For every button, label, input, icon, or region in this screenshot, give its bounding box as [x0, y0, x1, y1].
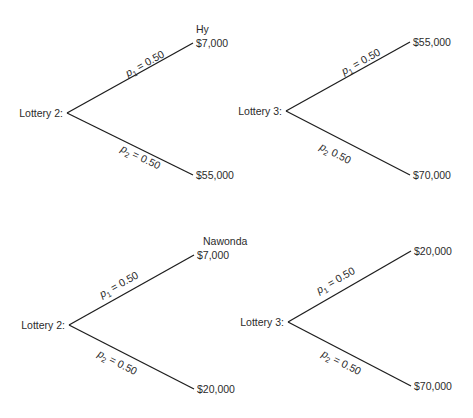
branch-line-upper [286, 42, 410, 111]
branch-line-lower [288, 322, 411, 386]
probability-label: p1 = 0.50 [313, 264, 358, 299]
probability-label: p1 = 0.50 [122, 48, 167, 82]
prob-value: = 0.50 [329, 352, 363, 377]
payoff-label: $70,000 [413, 169, 451, 181]
probability-label: p1 = 0.50 [338, 46, 383, 80]
prob-value: = 0.50 [323, 264, 357, 291]
lottery-label: Lottery 2: [21, 319, 65, 331]
lottery-tree: Lottery 2:$7,000p1 = 0.50$55,000p2 = 0.5… [19, 37, 234, 181]
payoff-label: $20,000 [414, 245, 452, 257]
lottery-tree: Lottery 2:$7,000p1 = 0.50$20,000p2 = 0.5… [21, 249, 235, 395]
person-group-hy: HyLottery 2:$7,000p1 = 0.50$55,000p2 = 0… [19, 23, 451, 181]
lottery-tree: Lottery 3:$55,000p1 = 0.50$70,000p2 0.50 [238, 36, 451, 181]
branch-line-lower [69, 325, 194, 389]
lottery-label: Lottery 3: [238, 105, 282, 117]
prob-value: 0.50 [327, 145, 353, 166]
branch-line-upper [288, 251, 411, 322]
prob-value: = 0.50 [128, 146, 163, 171]
payoff-label: $55,000 [413, 36, 451, 48]
prob-value: = 0.50 [132, 48, 166, 74]
lottery-tree: Lottery 3:$20,000p1 = 0.50$70,000p2 = 0.… [240, 245, 452, 392]
figure-root: HyLottery 2:$7,000p1 = 0.50$55,000p2 = 0… [19, 23, 452, 395]
probability-label: p2 0.50 [316, 140, 354, 169]
person-label: Nawonda [203, 235, 248, 247]
payoff-label: $20,000 [197, 383, 235, 395]
branch-line-upper [69, 255, 194, 325]
payoff-label: $7,000 [196, 37, 228, 49]
payoff-label: $55,000 [196, 169, 234, 181]
lottery-decision-trees-figure: HyLottery 2:$7,000p1 = 0.50$55,000p2 = 0… [0, 0, 473, 418]
prob-value: = 0.50 [105, 352, 139, 377]
probability-label: p2 = 0.50 [318, 347, 364, 380]
person-group-nawonda: NawondaLottery 2:$7,000p1 = 0.50$20,000p… [21, 235, 452, 395]
prob-value: = 0.50 [106, 269, 140, 295]
branch-line-lower [67, 113, 193, 175]
person-label: Hy [196, 23, 210, 35]
probability-label: p2 = 0.50 [94, 347, 140, 380]
payoff-label: $70,000 [414, 380, 452, 392]
lottery-label: Lottery 2: [19, 107, 63, 119]
lottery-label: Lottery 3: [240, 316, 284, 328]
payoff-label: $7,000 [197, 249, 229, 261]
probability-label: p2 = 0.50 [117, 142, 163, 175]
prob-value: = 0.50 [348, 46, 382, 72]
